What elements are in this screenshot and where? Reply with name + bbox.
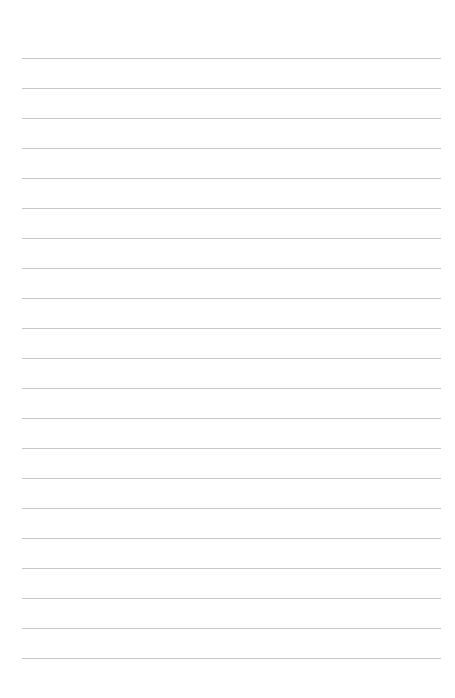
ruled-line (22, 58, 441, 59)
ruled-line (22, 538, 441, 539)
ruled-line (22, 358, 441, 359)
ruled-line (22, 568, 441, 569)
ruled-line (22, 388, 441, 389)
ruled-line (22, 298, 441, 299)
ruled-line (22, 448, 441, 449)
ruled-line (22, 178, 441, 179)
ruled-line (22, 148, 441, 149)
lined-paper-page (0, 0, 455, 698)
ruled-line (22, 598, 441, 599)
ruled-line (22, 208, 441, 209)
ruled-line (22, 268, 441, 269)
ruled-line (22, 508, 441, 509)
ruled-line (22, 478, 441, 479)
ruled-line (22, 238, 441, 239)
ruled-line (22, 118, 441, 119)
ruled-line (22, 658, 441, 659)
ruled-line (22, 328, 441, 329)
ruled-line (22, 88, 441, 89)
ruled-line (22, 628, 441, 629)
ruled-line (22, 418, 441, 419)
